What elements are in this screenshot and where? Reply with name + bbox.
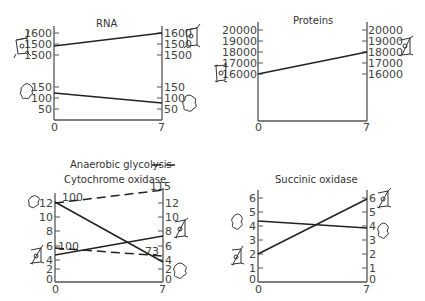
succ-left-tick: 5 bbox=[249, 206, 256, 219]
abnormal-cell-icon bbox=[378, 223, 389, 238]
proteins-x0: 0 bbox=[255, 121, 262, 134]
succ-right-tick: 0 bbox=[369, 273, 376, 286]
proteins-x7: 7 bbox=[363, 121, 370, 134]
succinic-title: Succinic oxidase bbox=[275, 174, 358, 185]
rna-right-tick: 1500 bbox=[164, 49, 192, 62]
rna-abnormal-line bbox=[54, 93, 162, 103]
normal-cell-icon bbox=[30, 245, 44, 264]
figure: RNA 1600 1500 1500 150 100 50 1600 1500 … bbox=[0, 0, 425, 301]
rna-normal-line bbox=[54, 33, 162, 46]
succinic-panel: Succinic oxidase 6 5 4 3 2 1 0 6 5 4 3 2… bbox=[231, 174, 391, 296]
succ-left-tick: 3 bbox=[249, 234, 256, 247]
cyto-right-tick: 0 bbox=[165, 273, 172, 286]
proteins-left-tick: 16000 bbox=[222, 68, 257, 81]
proteins-normal-line bbox=[258, 52, 367, 74]
succ-x0: 0 bbox=[255, 283, 262, 296]
rna-x0: 0 bbox=[51, 121, 58, 134]
cyto-annotation: 100 bbox=[62, 191, 83, 204]
cyto-left-tick: 6 bbox=[46, 240, 53, 253]
succ-right-tick: 4 bbox=[369, 220, 376, 233]
cyto-left-tick: 10 bbox=[39, 211, 53, 224]
succ-left-tick: 2 bbox=[249, 248, 256, 261]
rna-right-tick: 50 bbox=[164, 103, 178, 116]
cyto-x7: 7 bbox=[159, 283, 166, 296]
succ-left-tick: 4 bbox=[249, 220, 256, 233]
proteins-panel: Proteins 20000 19000 18000 17000 16000 2… bbox=[214, 15, 413, 134]
cyto-abnormal-line bbox=[55, 202, 163, 262]
cyto-x0: 0 bbox=[52, 283, 59, 296]
succ-right-tick: 3 bbox=[369, 234, 376, 247]
cyto-left-tick: 12 bbox=[39, 197, 53, 210]
rna-x7: 7 bbox=[158, 121, 165, 134]
cyto-right-tick: 12 bbox=[165, 197, 179, 210]
cyto-left-tick: 8 bbox=[46, 225, 53, 238]
succ-right-tick: 5 bbox=[369, 206, 376, 219]
cyto-right-tick: 6 bbox=[165, 240, 172, 253]
cyto-right-tick: 8 bbox=[165, 225, 172, 238]
normal-cell-icon bbox=[377, 188, 391, 208]
cytochrome-panel: Anaerobic glycolysis Cytochrome oxidase … bbox=[28, 159, 188, 296]
normal-cell-icon bbox=[231, 246, 244, 265]
succ-left-tick: 6 bbox=[249, 192, 256, 205]
succ-right-tick: 2 bbox=[369, 248, 376, 261]
proteins-right-tick: 16000 bbox=[368, 68, 403, 81]
rna-panel: RNA 1600 1500 1500 150 100 50 1600 1500 … bbox=[14, 18, 200, 134]
rna-left-tick: 50 bbox=[38, 103, 52, 116]
succ-x7: 7 bbox=[363, 283, 370, 296]
abnormal-cell-icon bbox=[28, 196, 39, 208]
abnormal-cell-icon bbox=[232, 214, 243, 229]
abnormal-cell-icon bbox=[174, 263, 187, 278]
succ-right-tick: 6 bbox=[369, 192, 376, 205]
rna-title: RNA bbox=[96, 18, 117, 29]
proteins-title: Proteins bbox=[293, 15, 333, 26]
